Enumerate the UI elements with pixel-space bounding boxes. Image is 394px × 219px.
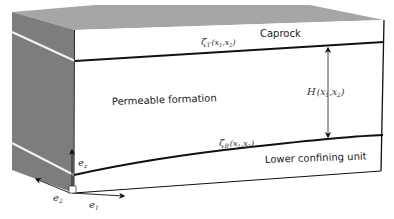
e1-label: e1 xyxy=(89,199,99,211)
block-diagram: Caprock Permeable formation Lower confin… xyxy=(0,0,394,219)
origin-marker xyxy=(69,186,76,193)
front-left-edge xyxy=(74,30,75,193)
e1-axis-arrow xyxy=(72,193,124,196)
e2-label: e2 xyxy=(53,192,63,204)
caprock-label: Caprock xyxy=(260,28,301,39)
side-face xyxy=(12,12,75,193)
